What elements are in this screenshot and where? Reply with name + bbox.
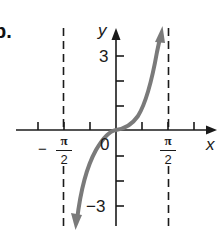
- curve-arrow-top-icon: [155, 26, 165, 43]
- origin-label: 0: [100, 136, 109, 153]
- fraction-numerator: π: [160, 133, 176, 151]
- y-axis-label: y: [98, 22, 107, 39]
- y-axis-arrow-icon: [112, 28, 121, 40]
- y-tick-label-3: 3: [99, 48, 108, 65]
- fraction-denominator: 2: [56, 151, 72, 167]
- fraction-denominator: 2: [160, 151, 176, 167]
- curve-arrow-bottom-icon: [71, 213, 82, 230]
- x-axis-arrow-icon: [206, 126, 217, 135]
- y-tick-label-neg3: −3: [86, 198, 105, 215]
- x-tick-label-pi-over-2: π 2: [160, 133, 176, 167]
- x-axis-label: x: [206, 136, 215, 153]
- graph-canvas: [0, 0, 218, 231]
- x-tick-neg-sign: −: [38, 141, 47, 156]
- x-tick-label-neg-pi-over-2: π 2: [56, 133, 72, 167]
- fraction-numerator: π: [56, 133, 72, 151]
